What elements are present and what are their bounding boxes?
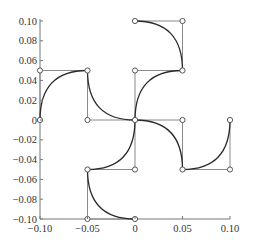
control-point-marker <box>85 167 90 172</box>
y-tick-label: 0.06 <box>19 55 37 66</box>
y-tick-label: 0.02 <box>19 95 37 106</box>
bezier-curve <box>40 71 88 121</box>
bezier-curve <box>135 71 183 121</box>
y-tick-label: 0.04 <box>19 75 38 86</box>
control-point-marker <box>180 117 185 122</box>
y-tick-label: −0.06 <box>13 174 37 185</box>
bezier-curve <box>88 170 136 220</box>
control-polygon <box>40 71 88 121</box>
y-tick-label: −0.04 <box>13 154 38 165</box>
bezier-curve <box>135 21 183 71</box>
bezier-curve <box>183 120 231 170</box>
control-polygon <box>88 71 136 121</box>
x-tick-label: −0.05 <box>75 223 99 234</box>
control-point-marker <box>132 117 137 122</box>
control-point-marker <box>132 167 137 172</box>
control-point-marker <box>227 117 232 122</box>
control-point-marker <box>227 167 232 172</box>
control-polygon <box>88 120 136 170</box>
control-point-marker <box>85 117 90 122</box>
x-tick-label: 0.10 <box>221 223 239 234</box>
control-point-marker <box>180 68 185 73</box>
bezier-curve <box>88 120 136 170</box>
x-tick-label: 0.05 <box>173 223 191 234</box>
y-tick-label: 0.08 <box>19 35 37 46</box>
bezier-curve <box>135 120 183 170</box>
y-tick-label: 0 <box>32 115 37 126</box>
x-tick-label: −0.10 <box>28 223 52 234</box>
control-point-marker <box>37 68 42 73</box>
control-point-marker <box>180 18 185 23</box>
y-tick-label: −0.08 <box>13 194 37 205</box>
y-tick-label: −0.02 <box>13 134 37 145</box>
control-polygon <box>183 120 231 170</box>
control-polygon <box>88 170 136 220</box>
control-point-marker <box>85 68 90 73</box>
control-point-markers <box>37 18 232 221</box>
control-polygon <box>135 120 183 170</box>
control-polygon <box>135 21 183 71</box>
control-point-marker <box>132 18 137 23</box>
bezier-pinwheel-chart: 0.100.080.060.040.020−0.02−0.04−0.06−0.0… <box>0 0 254 249</box>
bezier-curve <box>88 71 136 121</box>
x-tick-label: 0 <box>132 223 137 234</box>
control-point-marker <box>132 68 137 73</box>
y-tick-label: 0.10 <box>19 16 37 27</box>
control-polygon <box>135 71 183 121</box>
control-point-marker <box>180 167 185 172</box>
